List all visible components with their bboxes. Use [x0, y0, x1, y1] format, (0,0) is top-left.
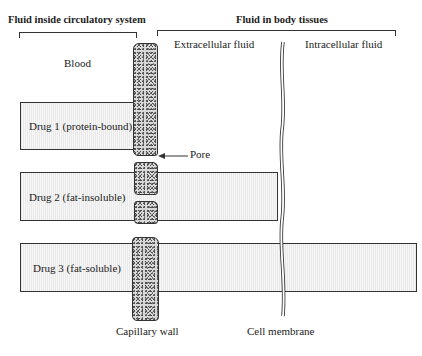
capillary-wall-segment-4 — [132, 237, 159, 321]
label-blood: Blood — [64, 57, 91, 69]
label-pore: Pore — [190, 148, 210, 160]
drug-1-label: Drug 1 (protein-bound) — [29, 120, 132, 132]
label-intracellular: Intracellular fluid — [305, 38, 382, 50]
label-cell-membrane: Cell membrane — [247, 325, 315, 337]
header-body-tissues: Fluid in body tissues — [236, 14, 328, 25]
drug-2-label: Drug 2 (fat-insoluble) — [29, 191, 126, 203]
capillary-wall-segment-2 — [134, 162, 158, 195]
cell-membrane-line — [276, 40, 290, 320]
bracket-circulatory — [19, 32, 137, 38]
drug-3-bar: Drug 3 (fat-soluble) — [20, 243, 417, 292]
pore-arrow-icon — [158, 150, 188, 162]
bracket-body-tissues — [157, 30, 396, 36]
label-extracellular: Extracellular fluid — [174, 38, 254, 50]
label-capillary-wall: Capillary wall — [116, 325, 179, 337]
header-circulatory: Fluid inside circulatory system — [8, 14, 146, 25]
drug-3-label: Drug 3 (fat-soluble) — [33, 262, 121, 274]
capillary-wall-segment-3 — [134, 201, 158, 224]
capillary-wall-segment-1 — [133, 43, 158, 156]
drug-1-bar: Drug 1 (protein-bound) — [20, 102, 134, 150]
